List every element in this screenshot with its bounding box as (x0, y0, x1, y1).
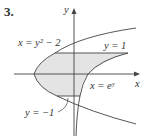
upper-line-label: y = 1 (103, 40, 126, 51)
parabola-label: x = y² − 2 (17, 37, 61, 48)
x-axis-arrow-icon (134, 72, 140, 77)
exp-label: x = eʸ (89, 80, 116, 91)
y-axis-label: y (63, 4, 69, 15)
y-axis-arrow-icon (72, 8, 77, 14)
region-diagram: y x x = y² − 2 y = 1 x = eʸ y = −1 (0, 0, 151, 139)
x-axis-label: x (134, 78, 140, 89)
lower-line-label: y = −1 (24, 107, 54, 118)
